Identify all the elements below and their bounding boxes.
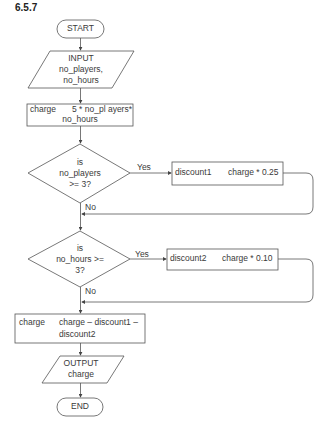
decision1-line3: >= 3? [40,179,120,190]
decision1-yes-label: Yes [137,162,151,173]
discount1-expr: charge * 0.25 [228,167,279,178]
input-label-line1: INPUT [40,53,122,64]
input-label-line2: no_players, [40,64,122,75]
start-label: START [57,23,104,34]
final-charge-var-label: charge [19,317,45,328]
final-charge-expr-line1: charge – discount1 – [59,317,138,328]
discount2-var-label: discount2 [170,253,206,264]
decision1-no-label: No [85,202,96,213]
decision2-yes-label: Yes [135,249,149,260]
input-label-line3: no_hours [40,75,122,86]
discount1-var-label: discount1 [175,167,211,178]
charge-expr-line2: no_hours [27,114,133,125]
final-charge-expr-line2: discount2 [59,329,95,340]
discount2-expr: charge * 0.10 [222,253,273,264]
output-label-line1: OUTPUT [43,358,119,369]
decision2-line2: no_hours >= [40,254,120,265]
decision2-line1: is [40,243,120,254]
decision1-line1: is [40,157,120,168]
output-label-line2: charge [43,369,119,380]
decision2-no-label: No [85,286,96,297]
end-label: END [57,401,103,412]
decision1-line2: no_players [40,168,120,179]
decision2-line3: 3? [40,265,120,276]
